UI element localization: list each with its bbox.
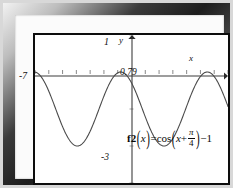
equation-fraction-numerator: π — [188, 128, 195, 137]
equation-annotation: f2(x)=cos(x+ π 4 )−1 — [127, 128, 212, 148]
equation-function-name: f2 — [127, 133, 136, 144]
equation-argument: x — [141, 133, 146, 144]
y-axis-arrow-icon — [128, 35, 135, 39]
equation-open-paren: ( — [172, 128, 176, 149]
equation-arg-close-paren: ) — [146, 128, 150, 149]
plot-area — [35, 35, 228, 183]
equation-minus-one: −1 — [200, 133, 212, 144]
equation-arg-open-paren: ( — [137, 128, 141, 149]
equation-fraction: π 4 — [188, 128, 195, 148]
x-axis-arrow-icon — [224, 72, 228, 79]
equation-close-paren: ) — [196, 128, 200, 149]
y-axis-bottom-label: -3 — [101, 153, 109, 163]
y-axis-name-label: y — [119, 36, 123, 45]
picture-frame-mat: 1 y x 0.79 -7 -3 f2(x)=cos(x+ π 4 )−1 — [15, 15, 224, 179]
picture-frame-bevel: 1 y x 0.79 -7 -3 f2(x)=cos(x+ π 4 )−1 — [3, 3, 230, 185]
equation-plus-sign: + — [181, 133, 187, 144]
x-axis-name-label: x — [189, 54, 193, 63]
x-axis-left-label: -7 — [19, 72, 27, 82]
equation-fraction-denominator: 4 — [188, 139, 195, 148]
picture-frame-outer: 1 y x 0.79 -7 -3 f2(x)=cos(x+ π 4 )−1 — [0, 0, 233, 188]
y-axis-top-label: 1 — [104, 37, 109, 47]
cosine-plot-svg — [35, 35, 228, 183]
equation-cos-operator: cos — [157, 133, 172, 144]
root-value-label: 0.79 — [120, 68, 137, 78]
